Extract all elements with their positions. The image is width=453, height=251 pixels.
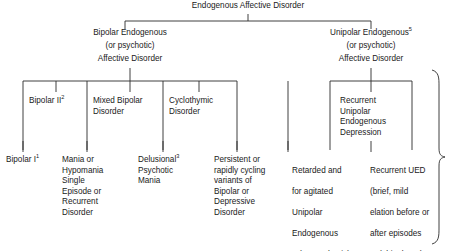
- unipolar-branch-superscript: 5: [409, 26, 412, 32]
- bipolar-branch-line2: (or psychotic): [60, 41, 200, 52]
- leaf-retarded-agitated-ued: Retarded and for agitated Unipolar Endog…: [292, 155, 366, 251]
- bipolar-branch-line3: Affective Disorder: [60, 54, 200, 65]
- leaf-ued-line1: Retarded and: [292, 166, 366, 177]
- leaf-delusional-psychotic-mania: Delusional3 Psychotic Mania: [138, 155, 204, 187]
- unipolar-branch-line1: Unipolar Endogenous5: [301, 28, 441, 39]
- leaf-bipolar-i-superscript: 1: [36, 153, 39, 159]
- root-node-label: Endogenous Affective Disorder: [160, 1, 336, 12]
- bipolar-subtype-bipolar-ii-text: Bipolar II: [29, 96, 61, 105]
- leaf-mania-or-hypomania: Mania or Hypomania Single Episode or Rec…: [62, 155, 124, 219]
- unipolar-subtype-recurrent-unipolar-endogenous-depression: Recurrent Unipolar Endogenous Depression: [340, 96, 412, 138]
- leaf-recurrent-ued-line4: after episodes: [370, 229, 453, 240]
- endogenous-affective-disorder-diagram: Endogenous Affective Disorder Bipolar En…: [0, 0, 453, 251]
- bipolar-subtype-bipolar-ii: Bipolar II2: [29, 96, 85, 107]
- unipolar-branch-line2: (or psychotic): [301, 41, 441, 52]
- leaf-delusional-rest: Psychotic Mania: [138, 166, 173, 186]
- leaf-ued-line4: Endogenous: [292, 229, 366, 240]
- leaf-delusional-superscript: 3: [176, 153, 179, 159]
- bipolar-subtype-bipolar-ii-superscript: 2: [61, 94, 64, 100]
- leaf-recurrent-ued-line3: elation before or: [370, 208, 453, 219]
- leaf-recurrent-ued-line2: (brief, mild: [370, 187, 453, 198]
- bipolar-subtype-mixed-bipolar-disorder: Mixed Bipolar Disorder: [93, 96, 163, 117]
- leaf-recurrent-ued-line1: Recurrent UED: [370, 166, 453, 177]
- bipolar-branch-line1: Bipolar Endogenous: [60, 28, 200, 39]
- leaf-bipolar-i: Bipolar I1: [6, 155, 66, 166]
- leaf-ued-line3: Unipolar: [292, 208, 366, 219]
- unipolar-branch-line1-text: Unipolar Endogenous: [330, 28, 409, 37]
- leaf-bipolar-i-text: Bipolar I: [6, 155, 36, 164]
- leaf-persistent-rapidly-cycling-variants: Persistent or rapidly cycling variants o…: [214, 155, 286, 219]
- unipolar-branch-line3: Affective Disorder: [301, 54, 441, 65]
- bipolar-subtype-cyclothymic-disorder: Cyclothymic Disorder: [169, 96, 237, 117]
- leaf-ued-line2: for agitated: [292, 187, 366, 198]
- leaf-recurrent-ued: Recurrent UED (brief, mild elation befor…: [370, 155, 453, 251]
- leaf-delusional-text: Delusional: [138, 155, 176, 164]
